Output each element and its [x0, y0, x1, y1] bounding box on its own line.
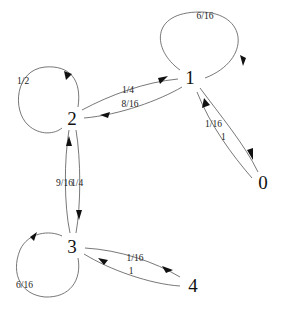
node-0: 0 [258, 172, 268, 193]
node-1: 1 [185, 67, 195, 88]
node-4: 4 [188, 275, 198, 296]
node-3: 3 [67, 236, 77, 257]
arrowhead-icon [76, 210, 82, 220]
edge-label-3-3: 6/16 [16, 280, 33, 290]
arrowhead-icon [100, 112, 110, 118]
arrowhead-icon [66, 136, 72, 146]
edge-label-3-4: 1/16 [127, 253, 144, 263]
state-diagram: 6/16 1/16 1 1/4 8/16 1/2 9/16 1/ [0, 0, 284, 311]
edge-label-2-2: 1/2 [17, 76, 29, 86]
edge-label-2-3: 1/4 [71, 178, 83, 188]
edge-label-1-0: 1/16 [205, 119, 222, 129]
edge-label-1-1: 6/16 [197, 11, 214, 21]
arrowhead-icon [30, 232, 37, 241]
edge-label-0-1: 1 [221, 132, 226, 142]
node-2: 2 [67, 108, 77, 129]
edge-label-1-2: 8/16 [122, 99, 139, 109]
edge-1-to-0: 1/16 [200, 88, 258, 172]
edge-label-2-1: 1/4 [122, 85, 134, 95]
edge-0-to-1: 1 [197, 92, 252, 178]
arrowhead-icon [240, 55, 246, 66]
edge-label-4-3: 1 [129, 266, 134, 276]
edge-2-to-3: 1/4 [71, 130, 83, 233]
edge-1-to-1: 6/16 [160, 11, 246, 78]
